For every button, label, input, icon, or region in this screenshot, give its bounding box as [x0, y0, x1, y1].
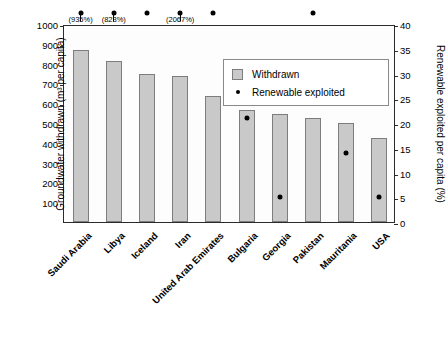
bar-series: (935%)(823%)(2067%): [64, 26, 394, 222]
bar: [205, 96, 221, 222]
bar-group: [363, 26, 396, 222]
plot-area: Groundwater withdrawn (m³ per capita) Re…: [63, 25, 395, 223]
chart-figure: Groundwater withdrawn (m³ per capita) Re…: [0, 0, 448, 340]
bar: [172, 76, 188, 222]
bar: [139, 74, 155, 222]
y-tick-label-right: 0: [400, 219, 405, 229]
x-tick-label: Saudi Arabia: [45, 230, 94, 279]
bar-group: (2067%): [164, 26, 197, 222]
y-tick-label-right: 15: [400, 145, 411, 155]
renewable-exploited-dot: [310, 11, 315, 16]
bar: [106, 61, 122, 222]
x-tick-label: Iran: [173, 230, 193, 250]
bar-group: (935%): [64, 26, 97, 222]
bar: [73, 50, 89, 222]
legend-label: Renewable exploited: [252, 87, 345, 98]
y-tick-label-left: 300: [42, 160, 58, 170]
bar: [338, 123, 354, 222]
renewable-exploited-dot: [344, 150, 349, 155]
legend-swatch-icon: [232, 69, 243, 80]
y-tick-label-left: 600: [42, 100, 58, 110]
y-tick-label-left: 800: [42, 61, 58, 71]
renewable-exploited-annotation: (935%): [69, 15, 93, 24]
y-tick-label-left: 1000: [37, 21, 58, 31]
legend-dot-icon: [232, 90, 243, 94]
y-tick-label-right: 10: [400, 170, 411, 180]
legend-item-withdrawn: Withdrawn: [232, 65, 380, 83]
y-tick-label-right: 25: [400, 95, 411, 105]
bar-group: [230, 26, 263, 222]
bar-group: [197, 26, 230, 222]
legend-item-renewable-exploited: Renewable exploited: [232, 83, 380, 101]
y-tick-label-left: 900: [42, 41, 58, 51]
y-tick-label-left: 100: [42, 199, 58, 209]
y-tick-label-right: 30: [400, 71, 411, 81]
y-tick-label-right: 5: [400, 194, 405, 204]
renewable-exploited-dot: [144, 11, 149, 16]
x-tick-label: Georgia: [259, 230, 292, 263]
y-tick-label-left: 500: [42, 120, 58, 130]
bar: [371, 138, 387, 222]
legend-label: Withdrawn: [252, 69, 299, 80]
bar-group: [130, 26, 163, 222]
y-tick-label-left: 400: [42, 140, 58, 150]
x-tick-label: USA: [370, 230, 392, 252]
renewable-exploited-dot: [211, 11, 216, 16]
x-tick-label: Iceland: [129, 230, 160, 261]
bar-group: [330, 26, 363, 222]
renewable-exploited-annotation: (2067%): [166, 15, 194, 24]
bar: [239, 110, 255, 222]
y-axis-title-right: Renewable exploited per capita (%): [435, 45, 446, 203]
y-tick-right: [394, 224, 398, 225]
renewable-exploited-annotation: (823%): [102, 15, 126, 24]
bar-group: [263, 26, 296, 222]
y-tick-label-right: 35: [400, 46, 411, 56]
renewable-exploited-dot: [377, 195, 382, 200]
bar: [305, 118, 321, 222]
y-tick-label-left: 200: [42, 179, 58, 189]
x-tick-label: Bulgaria: [225, 230, 260, 265]
bar: [272, 114, 288, 222]
renewable-exploited-dot: [277, 195, 282, 200]
y-tick-label-right: 20: [400, 120, 411, 130]
y-tick-label-right: 40: [400, 21, 411, 31]
bar-group: (823%): [97, 26, 130, 222]
x-tick-label: Libya: [101, 230, 126, 255]
renewable-exploited-dot: [244, 116, 249, 121]
chart-legend: Withdrawn Renewable exploited: [223, 59, 389, 106]
bar-group: [296, 26, 329, 222]
y-tick-label-left: 700: [42, 80, 58, 90]
